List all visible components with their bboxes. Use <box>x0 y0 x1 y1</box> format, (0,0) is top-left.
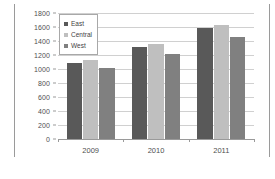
legend-label: East <box>71 20 84 27</box>
y-axis-tick <box>53 55 56 56</box>
y-axis-tick-label: 800 <box>38 80 50 87</box>
bar-chart: 020040060080010001200140016001800 200920… <box>18 6 268 174</box>
x-axis-ticks <box>58 139 254 143</box>
bar-west-2011 <box>230 37 246 139</box>
y-axis-tick-label: 400 <box>38 108 50 115</box>
x-axis-labels: 200920102011 <box>58 146 254 160</box>
legend-swatch-icon <box>64 33 68 37</box>
bar-group <box>189 13 254 139</box>
y-axis-tick <box>53 139 56 140</box>
y-axis-tick-label: 1400 <box>34 38 50 45</box>
bar-east-2009 <box>67 63 83 139</box>
legend-label: West <box>71 42 86 49</box>
y-axis-tick-label: 1200 <box>34 52 50 59</box>
legend-item-central[interactable]: Central <box>64 29 92 40</box>
legend-item-west[interactable]: West <box>64 40 92 51</box>
bar-west-2009 <box>99 68 115 139</box>
y-axis-tick <box>53 125 56 126</box>
y-axis-tick <box>53 111 56 112</box>
y-axis-tick-label: 1600 <box>34 24 50 31</box>
bar-central-2010 <box>148 44 164 139</box>
x-axis-label-2010: 2010 <box>148 146 165 155</box>
y-axis-tick-label: 200 <box>38 122 50 129</box>
legend-item-east[interactable]: East <box>64 18 92 29</box>
y-axis-tick <box>53 83 56 84</box>
y-axis-tick <box>53 41 56 42</box>
bar-east-2011 <box>197 28 213 139</box>
y-axis-tick <box>53 69 56 70</box>
legend-swatch-icon <box>64 44 68 48</box>
x-axis-tick <box>189 139 190 142</box>
bar-central-2011 <box>214 25 230 139</box>
y-axis-tick-label: 600 <box>38 94 50 101</box>
chart-legend: EastCentralWest <box>59 14 98 55</box>
y-axis-tick <box>53 27 56 28</box>
y-axis-tick <box>53 97 56 98</box>
x-axis-tick <box>58 139 59 142</box>
legend-label: Central <box>71 31 92 38</box>
bar-west-2010 <box>165 54 181 139</box>
y-axis-tick <box>53 13 56 14</box>
x-axis-tick <box>123 139 124 142</box>
y-axis-tick-label: 1800 <box>34 10 50 17</box>
y-axis-tick-label: 1000 <box>34 66 50 73</box>
x-axis-label-2009: 2009 <box>82 146 99 155</box>
y-axis: 020040060080010001200140016001800 <box>18 13 56 139</box>
bar-group <box>123 13 188 139</box>
bar-east-2010 <box>132 47 148 139</box>
bar-central-2009 <box>83 60 99 139</box>
x-axis-label-2011: 2011 <box>213 146 229 155</box>
page-border-right <box>269 4 270 157</box>
x-axis-tick <box>254 139 255 142</box>
page-border-left <box>14 4 15 157</box>
legend-swatch-icon <box>64 22 68 26</box>
y-axis-tick-label: 0 <box>46 136 50 143</box>
